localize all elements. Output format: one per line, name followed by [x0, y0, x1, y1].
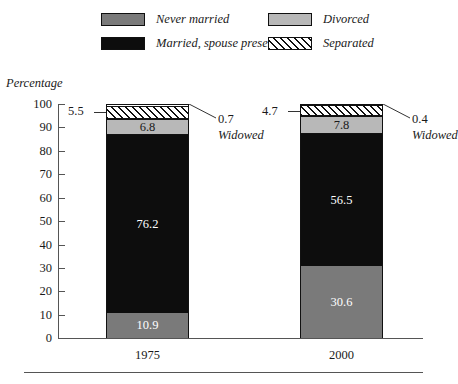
callout-leader-separated-1975: [94, 112, 106, 113]
callout-leader-separated-2000: [288, 111, 300, 112]
callout-widowed-text-2000: Widowed: [412, 128, 458, 143]
legend-label-married-spouse-present: Married, spouse present: [156, 36, 277, 51]
y-tick-mark: [59, 127, 65, 128]
bar-segment-divorced-1975: 6.8: [107, 119, 188, 135]
legend-item-married-spouse-present: Married, spouse present: [101, 36, 277, 51]
y-tick-label: 90: [22, 120, 52, 135]
bar-value-divorced-2000: 7.8: [334, 119, 350, 132]
bar-value-married-1975: 76.2: [137, 218, 159, 231]
y-tick-label: 40: [22, 238, 52, 253]
bar-value-never-married-1975: 10.9: [137, 319, 159, 332]
bar-segment-married-1975: 76.2: [107, 135, 188, 313]
callout-widowed-text-1975: Widowed: [218, 128, 264, 143]
legend-label-never-married: Never married: [156, 12, 229, 27]
legend-label-divorced: Divorced: [323, 12, 369, 27]
legend-item-never-married: Never married: [101, 12, 229, 27]
legend-swatch-divorced: [268, 13, 312, 26]
legend-item-divorced: Divorced: [268, 12, 369, 27]
y-tick-mark: [59, 104, 65, 105]
y-tick-label: 20: [22, 284, 52, 299]
y-tick-label: 30: [22, 261, 52, 276]
bar-segment-divorced-2000: 7.8: [301, 116, 382, 134]
y-tick-mark: [59, 268, 65, 269]
y-tick-mark: [59, 221, 65, 222]
legend-swatch-separated: [268, 37, 312, 50]
callout-leader-widowed-2000: [383, 104, 411, 120]
bar-value-never-married-2000: 30.6: [331, 296, 353, 309]
callout-widowed-value-1975: 0.7: [218, 112, 234, 126]
y-tick-mark: [59, 174, 65, 175]
y-tick-label: 10: [22, 308, 52, 323]
x-category-label-1975: 1975: [106, 348, 189, 363]
callout-widowed-1975: 0.7 Widowed: [218, 112, 264, 143]
bar-value-divorced-1975: 6.8: [140, 121, 156, 134]
legend-label-separated: Separated: [323, 36, 374, 51]
y-tick-label: 100: [22, 97, 52, 112]
y-tick-mark: [59, 198, 65, 199]
legend-swatch-married-spouse-present: [101, 37, 145, 50]
bar-1975: 6.8 76.2 10.9: [106, 104, 189, 338]
y-tick-mark: [59, 245, 65, 246]
bar-segment-separated-2000: [301, 105, 382, 116]
bar-2000: 7.8 56.5 30.6: [300, 104, 383, 338]
y-tick-label: 70: [22, 167, 52, 182]
y-tick-mark: [59, 151, 65, 152]
y-tick-label: 80: [22, 144, 52, 159]
figure-bottom-rule: [24, 372, 423, 373]
legend-swatch-never-married: [101, 13, 145, 26]
bar-value-married-2000: 56.5: [331, 194, 353, 207]
x-category-label-2000: 2000: [300, 348, 383, 363]
y-tick-label: 60: [22, 191, 52, 206]
bar-segment-separated-1975: [107, 106, 188, 119]
y-tick-mark: [59, 315, 65, 316]
x-axis-line: [58, 338, 423, 339]
legend-item-separated: Separated: [268, 36, 374, 51]
bar-segment-never-married-1975: 10.9: [107, 313, 188, 338]
y-tick-label: 50: [22, 214, 52, 229]
callout-widowed-value-2000: 0.4: [412, 112, 428, 126]
callout-leader-widowed-1975: [189, 104, 217, 120]
y-axis-title: Percentage: [6, 76, 62, 91]
callout-separated-1975: 5.5: [68, 104, 84, 119]
y-tick-mark: [59, 291, 65, 292]
y-tick-label: 0: [22, 331, 52, 346]
bar-segment-married-2000: 56.5: [301, 134, 382, 266]
callout-separated-2000: 4.7: [262, 104, 278, 119]
bar-segment-never-married-2000: 30.6: [301, 266, 382, 338]
chart-legend: Never married Married, spouse present Di…: [0, 12, 447, 58]
callout-widowed-2000: 0.4 Widowed: [412, 112, 458, 143]
